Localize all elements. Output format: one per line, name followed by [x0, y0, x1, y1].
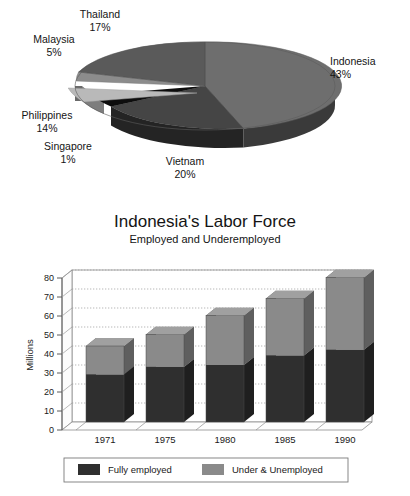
pie-label-thailand-pct: 17% — [55, 21, 145, 34]
y-axis-label: Millions — [24, 339, 35, 371]
y-tick-20: 20 — [44, 387, 54, 397]
pie-chart-figure: Thailand 17% Malaysia 5% Philippines 14%… — [0, 0, 410, 200]
pie-label-indonesia-pct: 43% — [330, 68, 408, 81]
y-tick-70: 70 — [44, 292, 54, 302]
chart-legend: Fully employed Under & Unemployed — [64, 458, 348, 482]
pie-label-thailand-name: Thailand — [80, 8, 120, 20]
pie-label-indonesia-name: Indonesia — [330, 55, 376, 67]
legend-label-fully-employed: Fully employed — [108, 464, 172, 475]
legend-label-under-unemployed: Under & Unemployed — [232, 464, 323, 475]
x-tick-1980: 1980 — [214, 434, 235, 445]
bar-group-1971 — [86, 338, 134, 422]
pie-label-indonesia: Indonesia 43% — [330, 55, 408, 80]
pie-label-philippines: Philippines 14% — [2, 109, 92, 134]
x-tick-labels: 1971 1975 1980 1985 1990 — [94, 434, 355, 445]
pie-label-malaysia: Malaysia 5% — [11, 33, 97, 58]
pie-label-philippines-pct: 14% — [2, 122, 92, 135]
legend-swatch-under-unemployed — [202, 464, 224, 475]
pie-label-singapore-pct: 1% — [24, 153, 112, 166]
pie-label-singapore: Singapore 1% — [24, 140, 112, 165]
bar-group-1980 — [206, 308, 254, 422]
y-tick-50: 50 — [44, 330, 54, 340]
pie-label-philippines-name: Philippines — [22, 109, 73, 121]
y-tick-labels: 0 10 20 30 40 50 60 70 80 — [44, 273, 54, 435]
legend-item-fully-employed: Fully employed — [78, 464, 172, 475]
y-tick-60: 60 — [44, 311, 54, 321]
legend-swatch-fully-employed — [78, 464, 100, 475]
pie-label-thailand: Thailand 17% — [55, 8, 145, 33]
pie-label-vietnam-name: Vietnam — [166, 155, 204, 167]
y-tick-10: 10 — [44, 406, 54, 416]
bar-group-1985 — [266, 291, 314, 423]
x-tick-1975: 1975 — [154, 434, 175, 445]
y-tick-30: 30 — [44, 368, 54, 378]
pie-label-malaysia-pct: 5% — [11, 46, 97, 59]
x-tick-1971: 1971 — [94, 434, 115, 445]
legend-item-under-unemployed: Under & Unemployed — [202, 464, 323, 475]
pie-label-vietnam: Vietnam 20% — [140, 155, 230, 180]
y-tick-0: 0 — [49, 425, 54, 435]
bar-chart-figure: Indonesia's Labor Force Employed and Und… — [0, 200, 410, 496]
bar-group-1975 — [146, 327, 194, 422]
y-tick-40: 40 — [44, 349, 54, 359]
x-tick-1990: 1990 — [334, 434, 355, 445]
bar-chart-graphic: 0 10 20 30 40 50 60 70 80 Millions — [0, 200, 410, 496]
x-tick-1985: 1985 — [274, 434, 295, 445]
y-tick-80: 80 — [44, 273, 54, 283]
pie-label-vietnam-pct: 20% — [140, 168, 230, 181]
bar-group-1990 — [326, 270, 374, 422]
pie-label-singapore-name: Singapore — [44, 140, 92, 152]
pie-label-malaysia-name: Malaysia — [33, 33, 74, 45]
